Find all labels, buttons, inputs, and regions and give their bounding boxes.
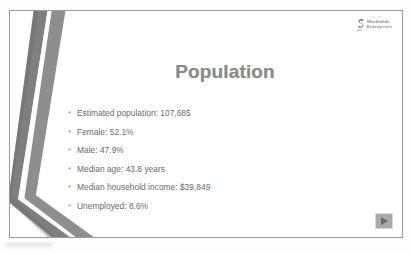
- list-item: * Male: 47.9%: [68, 144, 368, 163]
- bullet-marker-icon: *: [68, 163, 77, 176]
- bullet-list: * Estimated population: 107,685 * Female…: [68, 107, 368, 219]
- bullet-marker-icon: *: [68, 126, 77, 139]
- swoosh-e-icon: [356, 18, 365, 31]
- logo-line-2: Enterprises: [367, 25, 392, 29]
- play-triangle-icon: [381, 217, 388, 225]
- list-item-label: Estimated population: 107,685: [77, 107, 191, 120]
- list-item: * Median age: 43.8 years: [68, 163, 368, 182]
- logo: Worldwide Enterprises: [356, 18, 392, 31]
- list-item-label: Unemployed: 8.6%: [77, 200, 148, 213]
- scanned-page: Worldwide Enterprises Population * Estim…: [0, 0, 413, 254]
- slide-title: Population: [114, 61, 336, 83]
- list-item: * Unemployed: 8.6%: [68, 200, 368, 219]
- list-item-label: Median household income: $39,849: [77, 181, 210, 194]
- bullet-marker-icon: *: [68, 181, 77, 194]
- bullet-marker-icon: *: [68, 200, 77, 213]
- list-item-label: Median age: 43.8 years: [77, 163, 165, 176]
- bullet-marker-icon: *: [68, 144, 77, 157]
- list-item: * Estimated population: 107,685: [68, 107, 368, 126]
- scan-artifact: [6, 243, 52, 249]
- presentation-slide: Worldwide Enterprises Population * Estim…: [9, 10, 403, 238]
- bullet-marker-icon: *: [68, 107, 77, 120]
- list-item-label: Female: 52.1%: [77, 126, 134, 139]
- list-item: * Median household income: $39,849: [68, 181, 368, 200]
- list-item-label: Male: 47.9%: [77, 144, 124, 157]
- advance-slide-button[interactable]: [375, 213, 393, 229]
- list-item: * Female: 52.1%: [68, 126, 368, 145]
